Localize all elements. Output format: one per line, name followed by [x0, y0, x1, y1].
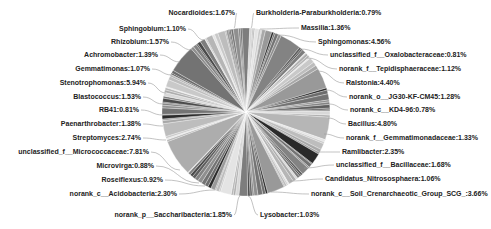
- slice-label: norank_p__Saccharibacteria:1.85%: [114, 211, 232, 219]
- slice-label: Roseiflexus:0.92%: [102, 176, 164, 183]
- leader-line: [260, 28, 299, 29]
- slice-label: Lysobacter:1.03%: [260, 211, 320, 219]
- slice-label: unclassified_f__Bacillaceae:1.68%: [336, 161, 452, 168]
- slice-label: Sphingobium:1.10%: [119, 25, 187, 33]
- leader-line: [251, 13, 254, 28]
- slice-label: Rhizobium:1.57%: [111, 38, 170, 45]
- leader-line: [326, 90, 347, 97]
- pie-slices: [162, 28, 330, 196]
- leader-line: [171, 42, 192, 50]
- slice-label: Gemmatimonas:1.07%: [75, 65, 150, 72]
- leader-line: [152, 69, 172, 75]
- slice-label: Microvirga:0.88%: [96, 162, 154, 170]
- leader-line: [148, 83, 166, 93]
- slice-label: RB41:0.81%: [99, 106, 140, 113]
- leader-line: [328, 118, 346, 124]
- leader-line: [141, 110, 163, 115]
- slice-label: norank_f__Gemmatimonadaceae:1.33%: [346, 134, 479, 141]
- slice-label: Massilia:1.36%: [301, 24, 351, 31]
- leader-line: [234, 196, 240, 215]
- slice-label: Achromobacter:1.39%: [84, 51, 159, 58]
- slice-label: Paenarthrobacter:1.38%: [61, 120, 142, 127]
- slice-label: Streptomyces:2.74%: [73, 134, 142, 142]
- slice-label: norank_c__Soil_Crenarchaeotic_Group_SCG_…: [311, 190, 488, 198]
- slice-label: norank_f__Tepidisphaeraceae:1.12%: [339, 65, 462, 73]
- leader-line: [248, 196, 258, 215]
- leader-line: [143, 138, 166, 140]
- slice-label: Candidatus_Nitrososphaera:1.06%: [325, 175, 441, 183]
- pie-chart: Nocardioides:1.67%Burkholderia-Paraburkh…: [0, 0, 491, 229]
- slice-label: Ralstonia:4.40%: [346, 79, 400, 86]
- slice-label: norank_c__KD4-96:0.78%: [350, 106, 436, 113]
- slice-label: Burkholderia-Paraburkholderia:0.79%: [256, 9, 382, 16]
- leader-line: [160, 55, 180, 62]
- slice-label: Sphingomonas:4.56%: [318, 38, 392, 46]
- slice-label: unclassified_f__Oxalobacteraceae:0.81%: [330, 51, 467, 58]
- slice-label: Nocardioides:1.67%: [168, 9, 235, 16]
- slice-label: norank_c__Acidobacteria:2.30%: [70, 190, 178, 197]
- leader-line: [329, 104, 348, 110]
- leader-line: [143, 124, 163, 126]
- leader-line: [143, 97, 163, 104]
- slice-label: Stenotrophomonas:5.94%: [60, 79, 147, 87]
- slice-label: Ramlibacter:2.35%: [342, 148, 405, 155]
- slice-label: unclassified_f__Micrococcaceae:7.81%: [18, 148, 150, 155]
- leader-line: [179, 190, 215, 194]
- leader-line: [188, 29, 204, 40]
- leader-line: [271, 192, 309, 194]
- slice-label: norank_o__JG30-KF-CM45:1.28%: [349, 93, 461, 100]
- slice-label: Blastococcus:1.53%: [73, 93, 141, 100]
- slice-label: Bacillus:4.80%: [348, 120, 398, 127]
